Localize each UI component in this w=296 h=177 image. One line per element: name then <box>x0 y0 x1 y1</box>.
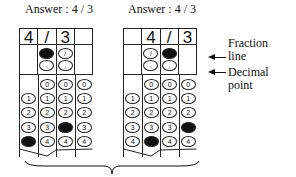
digit-bubble-3[interactable]: 3 <box>58 122 73 133</box>
digit-bubble-3[interactable]: 3 <box>77 122 92 133</box>
grid-bottom-edge <box>19 147 93 157</box>
digit-bubble-2[interactable]: 2 <box>162 107 177 118</box>
operator-column <box>20 45 38 74</box>
decimal-point-bubble[interactable]: . <box>162 60 177 71</box>
digit-column: 01234 <box>160 75 179 157</box>
header-cell <box>124 29 142 44</box>
answer-grid-1: 4/3./.01234012340123401234 <box>19 28 93 157</box>
digit-bubble-3[interactable]: 3 <box>181 122 196 133</box>
digit-column: 01234 <box>123 75 142 157</box>
grid-bottom-edge <box>123 147 197 157</box>
digit-bubble-3[interactable]: 3 <box>40 122 55 133</box>
digit-bubble-4[interactable]: 4 <box>181 136 196 147</box>
header-row: 4/3 <box>123 28 197 45</box>
digit-bubble-0[interactable]: 0 <box>58 79 73 90</box>
operator-row: ./. <box>19 45 93 75</box>
digit-bubble-3[interactable]: 3 <box>21 122 36 133</box>
header-cell: 3 <box>179 29 196 44</box>
digit-bubble-0[interactable]: 0 <box>181 79 196 90</box>
fraction-line-label: Fraction line <box>228 37 268 63</box>
answer-grid-2: 4/3/..01234012340123401234 <box>123 28 197 157</box>
operator-column: /. <box>142 45 160 74</box>
digit-column: 01234 <box>75 75 94 157</box>
operator-column <box>75 45 92 74</box>
digit-bubble-1[interactable]: 1 <box>40 93 55 104</box>
operator-column: . <box>161 45 179 74</box>
digit-bubble-2[interactable]: 2 <box>21 107 36 118</box>
fraction-line-bubble[interactable]: / <box>143 48 158 59</box>
header-cell <box>75 29 92 44</box>
digit-column: 01234 <box>38 75 57 157</box>
decimal-point-label: Decimal point <box>228 66 269 92</box>
digit-bubble-2[interactable]: 2 <box>77 107 92 118</box>
digit-bubble-2[interactable]: 2 <box>40 107 55 118</box>
digit-bubble-0[interactable]: 0 <box>40 79 55 90</box>
digit-bubble-4[interactable]: 4 <box>58 136 73 147</box>
digit-bubble-2[interactable]: 2 <box>181 107 196 118</box>
digit-bubble-3[interactable]: 3 <box>162 122 177 133</box>
digit-bubble-4[interactable]: 4 <box>77 136 92 147</box>
operator-column <box>179 45 196 74</box>
digit-bubble-3[interactable]: 3 <box>144 122 159 133</box>
digit-bubble-4[interactable]: 4 <box>144 136 159 147</box>
digit-bubble-1[interactable]: 1 <box>162 93 177 104</box>
fraction-line-arrow-icon <box>214 57 226 58</box>
digit-column: 01234 <box>142 75 161 157</box>
decimal-point-arrow-icon <box>214 72 226 73</box>
answer-grid-2-title: Answer : 4 / 3 <box>128 2 196 17</box>
digit-bubble-4[interactable]: 4 <box>21 136 36 147</box>
header-cell: 4 <box>20 29 38 44</box>
digit-bubble-1[interactable]: 1 <box>58 93 73 104</box>
header-cell: 4 <box>142 29 160 44</box>
digit-bubble-1[interactable]: 1 <box>21 93 36 104</box>
decimal-point-bubble[interactable]: . <box>58 60 73 71</box>
operator-column <box>124 45 142 74</box>
digit-column: 01234 <box>19 75 38 157</box>
fraction-line-bubble[interactable] <box>39 48 54 59</box>
digit-bubble-1[interactable]: 1 <box>144 93 159 104</box>
digit-bubble-2[interactable]: 2 <box>58 107 73 118</box>
digit-bubble-3[interactable]: 3 <box>125 122 140 133</box>
digit-bubble-4[interactable]: 4 <box>40 136 55 147</box>
fraction-line-bubble[interactable] <box>162 48 177 59</box>
digit-bubble-1[interactable]: 1 <box>125 93 140 104</box>
digit-column: 01234 <box>56 75 75 157</box>
digit-bubble-4[interactable]: 4 <box>162 136 177 147</box>
digit-bubble-0[interactable]: 0 <box>77 79 92 90</box>
digit-bubble-2[interactable]: 2 <box>144 107 159 118</box>
header-cell: 3 <box>57 29 75 44</box>
digit-bubble-0[interactable]: 0 <box>162 79 177 90</box>
digit-bubble-2[interactable]: 2 <box>125 107 140 118</box>
header-cell: / <box>161 29 179 44</box>
operator-column: . <box>38 45 56 74</box>
decimal-point-bubble[interactable]: . <box>39 60 54 71</box>
digit-column: 01234 <box>179 75 198 157</box>
digit-bubble-area: 01234012340123401234 <box>19 75 93 157</box>
digit-bubble-1[interactable]: 1 <box>77 93 92 104</box>
curly-brace-icon <box>24 158 200 176</box>
answer-grid-1-title: Answer : 4 / 3 <box>25 2 93 17</box>
digit-bubble-0[interactable]: 0 <box>144 79 159 90</box>
header-cell: / <box>38 29 56 44</box>
decimal-point-bubble[interactable]: . <box>143 60 158 71</box>
operator-column: /. <box>57 45 75 74</box>
operator-row: /.. <box>123 45 197 75</box>
digit-bubble-1[interactable]: 1 <box>181 93 196 104</box>
header-row: 4/3 <box>19 28 93 45</box>
digit-bubble-4[interactable]: 4 <box>125 136 140 147</box>
fraction-line-bubble[interactable]: / <box>58 48 73 59</box>
digit-bubble-area: 01234012340123401234 <box>123 75 197 157</box>
